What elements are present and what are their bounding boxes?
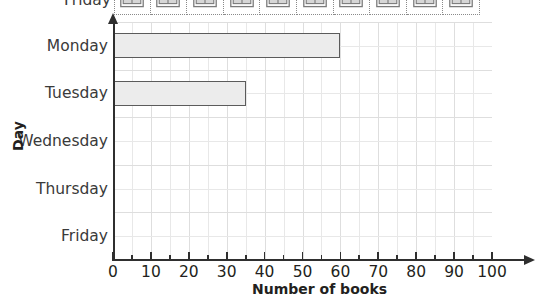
x-tick-major xyxy=(264,252,266,261)
open-book-icon xyxy=(193,0,217,8)
x-tick-major xyxy=(415,252,417,261)
x-tick-label: 100 xyxy=(467,263,517,281)
x-axis-arrow-icon xyxy=(524,255,535,265)
x-tick-minor xyxy=(396,255,398,261)
open-book-icon xyxy=(413,0,437,8)
x-tick-major xyxy=(377,252,379,261)
x-tick-major xyxy=(453,252,455,261)
plot-area xyxy=(113,22,492,260)
open-book-icon xyxy=(303,0,327,8)
x-axis-title: Number of books xyxy=(113,281,526,297)
bar-monday xyxy=(113,33,340,58)
pictogram-cell xyxy=(114,0,151,15)
y-tick-label-thursday: Thursday xyxy=(4,180,108,198)
x-tick-minor xyxy=(245,255,247,261)
x-tick-minor xyxy=(131,255,133,261)
x-tick-major xyxy=(302,252,304,261)
y-tick-label-friday: Friday xyxy=(4,227,108,245)
open-book-icon xyxy=(449,0,473,8)
pictogram-cell xyxy=(297,0,334,15)
pictogram-cell xyxy=(187,0,224,15)
x-tick-minor xyxy=(169,255,171,261)
y-axis-line xyxy=(113,22,115,260)
y-axis-title: Day xyxy=(10,106,26,166)
open-book-icon xyxy=(339,0,363,8)
x-tick-major xyxy=(188,252,190,261)
pictogram-cells xyxy=(114,0,480,15)
chart-canvas: Friday 0102030405060708090100 MondayTues… xyxy=(0,0,542,298)
x-tick-major xyxy=(491,252,493,261)
pictogram-cell xyxy=(334,0,371,15)
y-tick-label-tuesday: Tuesday xyxy=(4,84,108,102)
y-tick-label-monday: Monday xyxy=(4,37,108,55)
x-tick-major xyxy=(226,252,228,261)
x-tick-minor xyxy=(358,255,360,261)
bar-series xyxy=(113,22,492,260)
open-book-icon xyxy=(266,0,290,8)
y-axis-arrow-icon xyxy=(108,13,118,24)
x-tick-minor xyxy=(283,255,285,261)
x-tick-major xyxy=(340,252,342,261)
pictogram-cell xyxy=(443,0,480,15)
open-book-icon xyxy=(156,0,180,8)
x-axis-line xyxy=(113,259,526,261)
pictogram-cell xyxy=(260,0,297,15)
pictogram-cell xyxy=(370,0,407,15)
x-tick-minor xyxy=(321,255,323,261)
pictogram-cell xyxy=(407,0,444,15)
x-tick-major xyxy=(112,252,114,261)
pictogram-cell xyxy=(224,0,261,15)
x-tick-minor xyxy=(434,255,436,261)
bar-tuesday xyxy=(113,81,246,106)
x-tick-major xyxy=(150,252,152,261)
open-book-icon xyxy=(376,0,400,8)
open-book-icon xyxy=(230,0,254,8)
open-book-icon xyxy=(120,0,144,8)
pictogram-cell xyxy=(151,0,188,15)
x-tick-minor xyxy=(472,255,474,261)
x-tick-minor xyxy=(207,255,209,261)
